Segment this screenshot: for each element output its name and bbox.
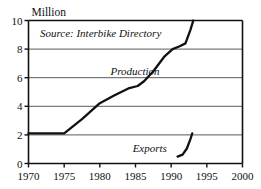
y-tick-label-4: 4 (17, 100, 23, 112)
series-label-exports: Exports (132, 142, 167, 154)
y-tick-label-2: 2 (17, 129, 23, 141)
source-note: Source: Interbike Directory (40, 27, 161, 39)
x-tick-label-1970: 1970 (18, 170, 41, 182)
y-tick-label-10: 10 (12, 15, 24, 27)
x-tick-label-1975: 1975 (53, 170, 76, 182)
bicycle-production-chart: 0246810 1970197519801985199019952000 Mil… (0, 0, 261, 189)
x-tick-label-2000: 2000 (232, 170, 255, 182)
x-tick-label-1985: 1985 (125, 170, 148, 182)
y-tick-label-6: 6 (17, 72, 23, 84)
annotation-layer: Source: Interbike Directory (40, 27, 161, 39)
y-tick-label-0: 0 (17, 158, 23, 170)
x-tick-label-1980: 1980 (89, 170, 112, 182)
y-tick-label-8: 8 (17, 43, 23, 55)
chart-canvas: 0246810 1970197519801985199019952000 Mil… (0, 0, 261, 189)
y-axis-unit-label: Million (32, 6, 67, 18)
x-tick-label-1990: 1990 (160, 170, 183, 182)
x-tick-label-1995: 1995 (196, 170, 219, 182)
series-label-production: Production (110, 65, 161, 77)
